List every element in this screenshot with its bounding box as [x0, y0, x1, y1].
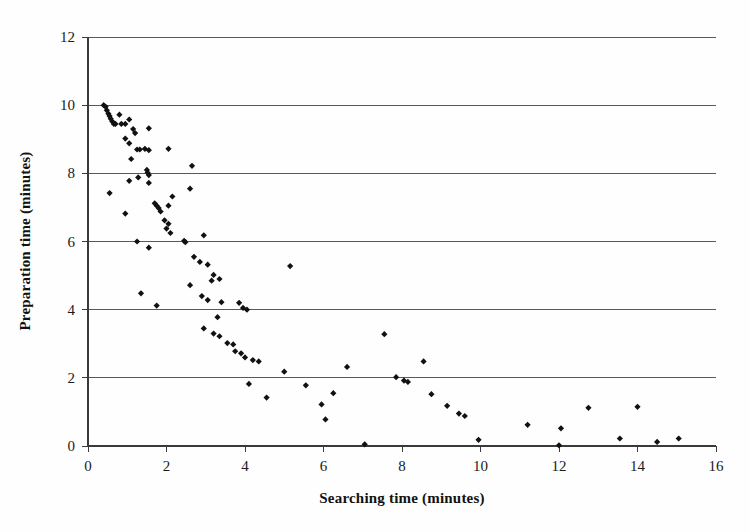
data-point — [236, 300, 242, 306]
data-point — [428, 391, 434, 397]
data-point — [676, 435, 682, 441]
x-tick-label-8: 8 — [398, 458, 406, 474]
data-point — [128, 156, 134, 162]
data-point — [126, 178, 132, 184]
data-point — [344, 364, 350, 370]
data-point — [126, 140, 132, 146]
gridlines — [88, 37, 716, 378]
data-point — [116, 112, 122, 118]
data-point — [205, 297, 211, 303]
data-point — [216, 276, 222, 282]
x-axis-title: Searching time (minutes) — [319, 490, 484, 507]
data-point — [617, 435, 623, 441]
data-point — [154, 302, 160, 308]
data-point — [106, 190, 112, 196]
data-point — [122, 210, 128, 216]
data-point — [420, 358, 426, 364]
data-point — [134, 238, 140, 244]
data-point — [211, 330, 217, 336]
y-tick-label-10: 10 — [60, 97, 75, 113]
data-point — [230, 341, 236, 347]
data-point — [209, 278, 215, 284]
data-point — [246, 381, 252, 387]
data-point — [214, 314, 220, 320]
data-point — [330, 390, 336, 396]
data-point — [303, 382, 309, 388]
data-point — [146, 180, 152, 186]
data-point — [281, 369, 287, 375]
x-tick-label-10: 10 — [473, 458, 488, 474]
data-point — [287, 263, 293, 269]
data-point — [444, 403, 450, 409]
x-tick-label-6: 6 — [320, 458, 328, 474]
data-point — [201, 325, 207, 331]
y-tick-label-0: 0 — [68, 438, 76, 454]
data-point — [381, 331, 387, 337]
data-point — [475, 437, 481, 443]
data-point — [585, 405, 591, 411]
data-point — [165, 203, 171, 209]
y-axis-title: Preparation time (minutes) — [17, 151, 34, 330]
data-point — [169, 193, 175, 199]
x-tick-label-16: 16 — [709, 458, 725, 474]
data-point — [654, 439, 660, 445]
data-point — [263, 395, 269, 401]
data-point — [197, 259, 203, 265]
data-point — [456, 411, 462, 417]
data-point — [525, 422, 531, 428]
data-point — [126, 116, 132, 122]
data-point — [122, 135, 128, 141]
x-tick-label-0: 0 — [84, 458, 92, 474]
data-point — [216, 333, 222, 339]
y-tick-label-2: 2 — [68, 370, 76, 386]
scatter-chart-figure: 0246810121416 024681012 Searching time (… — [0, 0, 750, 532]
data-point — [238, 350, 244, 356]
data-point — [146, 125, 152, 131]
data-point — [122, 121, 128, 127]
data-point — [135, 174, 141, 180]
data-point — [256, 358, 262, 364]
data-point — [205, 262, 211, 268]
x-tick-labels: 0246810121416 — [84, 458, 724, 474]
data-point — [201, 232, 207, 238]
data-point — [165, 146, 171, 152]
axis-tickmarks — [82, 37, 716, 452]
data-point — [211, 272, 217, 278]
data-point — [558, 425, 564, 431]
scatter-plot-canvas: 0246810121416 024681012 Searching time (… — [0, 0, 750, 532]
y-tick-label-8: 8 — [68, 165, 76, 181]
y-tick-labels: 024681012 — [60, 29, 76, 454]
x-tick-label-14: 14 — [630, 458, 646, 474]
y-tick-label-4: 4 — [68, 302, 76, 318]
data-point — [191, 254, 197, 260]
data-point — [232, 348, 238, 354]
data-point — [189, 163, 195, 169]
y-tick-label-12: 12 — [60, 29, 75, 45]
data-point — [250, 357, 256, 363]
data-point — [187, 282, 193, 288]
data-point — [167, 230, 173, 236]
data-point — [218, 299, 224, 305]
data-point — [146, 245, 152, 251]
data-point — [322, 416, 328, 422]
data-point — [556, 442, 562, 448]
data-point — [138, 290, 144, 296]
x-tick-label-12: 12 — [552, 458, 567, 474]
x-tick-label-4: 4 — [241, 458, 249, 474]
data-point — [462, 413, 468, 419]
data-point — [242, 354, 248, 360]
data-point — [187, 186, 193, 192]
data-point — [318, 401, 324, 407]
data-point — [224, 340, 230, 346]
data-point — [199, 293, 205, 299]
data-point — [634, 404, 640, 410]
x-tick-label-2: 2 — [163, 458, 171, 474]
data-points — [101, 102, 682, 448]
data-point — [393, 374, 399, 380]
y-tick-label-6: 6 — [68, 234, 76, 250]
